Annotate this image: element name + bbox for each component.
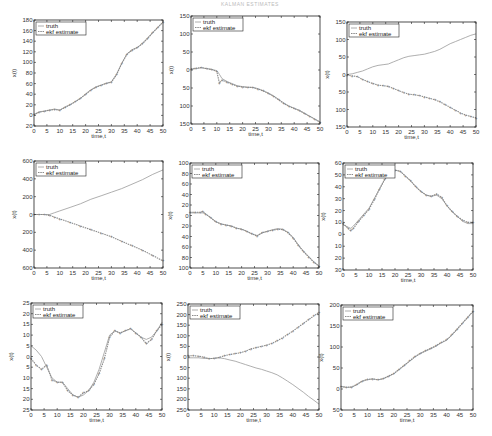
svg-text:+: + bbox=[398, 367, 401, 372]
svg-text:+: + bbox=[271, 228, 274, 233]
y-tick-label: 20 bbox=[335, 255, 342, 261]
svg-text:+: + bbox=[40, 367, 43, 372]
svg-text:+: + bbox=[362, 213, 365, 218]
svg-text:+: + bbox=[239, 350, 242, 355]
x-tick-label: 30 bbox=[265, 126, 272, 132]
x-tick-label: 15 bbox=[226, 126, 233, 132]
svg-text:+: + bbox=[223, 353, 226, 358]
x-tick-label: 45 bbox=[303, 270, 310, 276]
svg-text:+: + bbox=[402, 90, 405, 95]
svg-text:+: + bbox=[361, 77, 364, 82]
x-tick-label: 20 bbox=[395, 129, 402, 135]
x-tick-label: 40 bbox=[291, 126, 298, 132]
y-axis-label: x(t) bbox=[8, 352, 14, 361]
svg-text:+: + bbox=[35, 363, 38, 368]
x-tick-label: 0 bbox=[339, 412, 343, 418]
x-tick-label: 35 bbox=[434, 129, 441, 135]
svg-text:+: + bbox=[103, 356, 106, 361]
x-tick-label: 30 bbox=[421, 129, 428, 135]
page-header-text: KALMAN ESTIMATES bbox=[150, 1, 350, 7]
svg-text:+: + bbox=[100, 231, 103, 236]
y-tick-label: 100 bbox=[22, 59, 33, 65]
svg-text:+: + bbox=[200, 65, 203, 70]
x-tick-label: 10 bbox=[213, 126, 220, 132]
y-axis-label: x(t) bbox=[167, 211, 173, 220]
svg-text:+: + bbox=[226, 80, 229, 85]
chart-panel-4: ++++++++++++++++051015202530354045506004… bbox=[8, 155, 171, 284]
legend: truthekf estimate bbox=[36, 22, 86, 35]
svg-text:+: + bbox=[202, 355, 205, 360]
line-chart: +++++++++++++++++++++++++++0510152025303… bbox=[165, 10, 328, 140]
y-tick-label: 150 bbox=[335, 124, 346, 130]
svg-text:+: + bbox=[371, 377, 374, 382]
x-tick-label: 5 bbox=[353, 412, 357, 418]
x-tick-label: 15 bbox=[69, 270, 76, 276]
svg-text:+: + bbox=[373, 197, 376, 202]
svg-text:+: + bbox=[350, 385, 353, 390]
svg-text:+: + bbox=[131, 48, 134, 53]
svg-text:+: + bbox=[136, 45, 139, 50]
x-axis-label: time,t bbox=[91, 133, 106, 139]
x-tick-label: 40 bbox=[134, 270, 141, 276]
y-axis-label: x(t) bbox=[324, 70, 330, 79]
x-tick-label: 45 bbox=[456, 412, 463, 418]
x-tick-label: 10 bbox=[211, 412, 218, 418]
y-tick-label: 40 bbox=[335, 184, 342, 190]
svg-text:+: + bbox=[283, 101, 286, 106]
y-tick-label: 150 bbox=[179, 121, 190, 127]
svg-text:+: + bbox=[79, 224, 82, 229]
svg-text:+: + bbox=[403, 363, 406, 368]
x-tick-label: 0 bbox=[32, 270, 36, 276]
y-tick-label: 80 bbox=[182, 255, 189, 261]
x-axis-label: time,t bbox=[248, 131, 263, 137]
y-axis-label: x(t) bbox=[168, 66, 174, 75]
y-tick-label: 10 bbox=[23, 375, 30, 381]
legend-ekf-label: ekf estimate bbox=[46, 29, 79, 35]
svg-text:+: + bbox=[428, 96, 431, 101]
chart-panel-3: ++++++++++++++++++++++++++05101520253035… bbox=[321, 16, 484, 143]
svg-text:+: + bbox=[399, 169, 402, 174]
y-tick-label: 50 bbox=[180, 343, 187, 349]
legend: truthekf estimate bbox=[345, 165, 395, 178]
truth-line bbox=[31, 322, 162, 397]
svg-text:+: + bbox=[308, 114, 311, 119]
svg-text:+: + bbox=[140, 335, 143, 340]
truth-line bbox=[347, 34, 476, 75]
x-axis-label: time,t bbox=[91, 275, 106, 281]
x-tick-label: 15 bbox=[379, 272, 386, 278]
svg-text:+: + bbox=[382, 83, 385, 88]
svg-text:+: + bbox=[51, 378, 54, 383]
x-tick-label: 20 bbox=[238, 270, 245, 276]
y-tick-label: 10 bbox=[23, 332, 30, 338]
x-axis-label: time,t bbox=[247, 275, 262, 281]
truth-line bbox=[34, 22, 163, 114]
x-axis-label: time,t bbox=[400, 417, 415, 423]
x-tick-label: 45 bbox=[304, 126, 311, 132]
svg-text:+: + bbox=[461, 321, 464, 326]
line-chart: ++++++++++++++++++++++++++05101520253035… bbox=[8, 14, 171, 142]
svg-text:+: + bbox=[58, 108, 61, 113]
x-tick-label: 35 bbox=[431, 272, 438, 278]
x-tick-label: 40 bbox=[289, 412, 296, 418]
x-tick-label: 40 bbox=[290, 270, 297, 276]
y-axis-label: x(t) bbox=[320, 212, 326, 221]
y-tick-label: 20 bbox=[335, 208, 342, 214]
svg-text:+: + bbox=[266, 229, 269, 234]
svg-text:+: + bbox=[157, 25, 160, 30]
svg-text:+: + bbox=[371, 81, 374, 86]
svg-text:+: + bbox=[141, 41, 144, 46]
svg-text:+: + bbox=[397, 88, 400, 93]
svg-text:+: + bbox=[126, 52, 129, 57]
y-tick-label: 50 bbox=[183, 49, 190, 55]
svg-text:+: + bbox=[84, 92, 87, 97]
y-tick-label: 0 bbox=[338, 231, 342, 237]
x-tick-label: 15 bbox=[382, 129, 389, 135]
y-tick-label: 600 bbox=[22, 265, 33, 271]
y-tick-label: 400 bbox=[22, 247, 33, 253]
y-tick-label: 50 bbox=[180, 365, 187, 371]
chart-panel-2: +++++++++++++++++++++++++++0510152025303… bbox=[165, 10, 328, 140]
truth-line bbox=[188, 358, 319, 404]
y-tick-label: 20 bbox=[26, 123, 33, 129]
x-tick-label: 45 bbox=[146, 412, 153, 418]
svg-text:+: + bbox=[115, 72, 118, 77]
